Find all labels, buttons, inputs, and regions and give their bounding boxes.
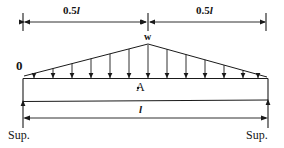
support-label-left: Sup. (8, 129, 30, 141)
dimension-arrowhead-right-a (149, 20, 155, 25)
distributed-load-arrows (34, 45, 258, 78)
point-a-label: A (136, 81, 145, 93)
dimension-arrowhead-left-a (24, 20, 30, 25)
triangular-load-outline (24, 44, 267, 77)
dimension-arrowhead-right-b (260, 20, 266, 25)
load-slope-right (148, 44, 267, 77)
support-arrowhead-left (21, 100, 26, 106)
peak-load-label: w (144, 32, 151, 42)
dimension-label-right-value: 0.5 (196, 4, 210, 16)
dimension-arrowhead-left-b (141, 20, 147, 25)
dimension-label-right-symbol: l (210, 4, 213, 16)
dimension-label-right-half: 0.5l (196, 5, 213, 16)
beam-loading-diagram: 0.5l 0.5l w 0 A l Sup. Sup. (0, 0, 284, 148)
diagram-canvas (0, 0, 284, 148)
top-dimension-group (23, 13, 266, 31)
span-arrowhead-left (23, 115, 30, 120)
span-dimension-group (21, 99, 271, 121)
support-extension-lines (23, 100, 268, 128)
dimension-label-left-value: 0.5 (63, 4, 77, 16)
dimension-label-left-half: 0.5l (63, 5, 80, 16)
beam-bottom-edge (23, 100, 268, 102)
dimension-label-left-symbol: l (77, 4, 80, 16)
span-arrowhead-right (261, 115, 268, 120)
zero-load-label: 0 (16, 59, 23, 72)
support-label-right: Sup. (246, 129, 268, 141)
beam-body (23, 79, 268, 102)
span-length-label: l (139, 104, 142, 115)
